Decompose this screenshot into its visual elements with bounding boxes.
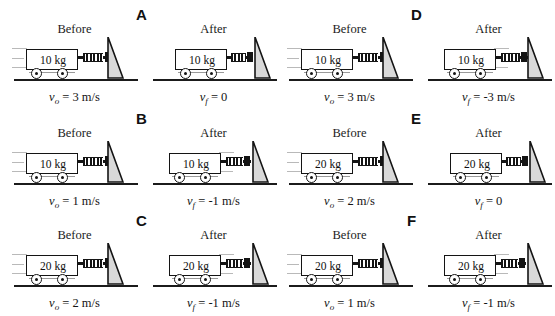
wheel-rear-icon [57,274,68,285]
cart-body: 10 kg [444,49,496,70]
wheel-rear-icon [332,68,343,79]
ground-line [153,285,277,287]
cart-body: 20 kg [169,255,221,276]
spring-bumper-icon [227,53,253,62]
wheel-rear-icon [206,68,217,79]
velocity-caption: vf = -1 m/s [422,296,555,312]
panel-a: A Before 10 kg vo = 3 m/s [8,4,280,107]
wheel-rear-icon [332,274,343,285]
wheel-front-icon [31,274,42,285]
velocity-caption: vf = 0 [422,194,555,210]
wall-icon [528,141,546,183]
spring-bumper-icon [502,157,528,166]
wheel-rear-icon [200,172,211,183]
velocity-caption: vf = -1 m/s [147,296,280,312]
ground-line [289,285,413,287]
spring-bumper-icon [221,157,251,166]
panel-e: E Before 20 kg vo = 2 m/s [283,108,555,211]
wheel-rear-icon [57,68,68,79]
wheel-front-icon [306,172,317,183]
panel-b: B Before 10 kg vo = 1 m/s [8,108,280,211]
wheel-front-icon [455,172,466,183]
velocity-caption: vo = 2 m/s [283,194,416,210]
wall-icon [381,243,399,285]
panel-d: D Before 10 kg vo = 3 m/s [283,4,555,107]
scene-title: Before [8,22,141,37]
wall-icon [253,37,271,79]
panel-f: F Before 20 kg vo = 1 m/s [283,210,555,313]
scene-title: After [147,22,280,37]
physics-figure: A Before 10 kg vo = 3 m/s [0,0,555,316]
cart-body: 10 kg [26,153,78,174]
wheel-front-icon [306,68,317,79]
scene-title: Before [283,228,416,243]
wheel-rear-icon [481,172,492,183]
panel-c: C Before 20 kg vo = 2 m/s [8,210,280,313]
cart-body: 20 kg [301,255,353,276]
scene-d-before: Before 10 kg vo = 3 m/s [283,4,416,107]
ground-line [14,285,138,287]
wheel-rear-icon [200,274,211,285]
scene-title: Before [283,22,416,37]
wall-icon [526,243,544,285]
ground-line [14,79,138,81]
spring-bumper-icon [221,259,251,268]
ground-line [14,183,138,185]
scene-title: After [422,228,555,243]
wall-icon [381,141,399,183]
ground-line [428,183,552,185]
ground-line [153,79,277,81]
scene-c-after: After 20 kg vf = -1 m/s [147,210,280,313]
wall-icon [381,37,399,79]
ground-line [289,79,413,81]
wheel-rear-icon [475,68,486,79]
velocity-caption: vo = 1 m/s [283,296,416,312]
wall-icon [526,37,544,79]
wheel-rear-icon [57,172,68,183]
cart-body: 20 kg [301,153,353,174]
cart-body: 20 kg [444,255,496,276]
velocity-caption: vo = 1 m/s [8,194,141,210]
scene-f-after: After 20 kg vf = -1 m/s [422,210,555,313]
wall-icon [251,243,269,285]
wheel-rear-icon [475,274,486,285]
cart-body: 20 kg [26,255,78,276]
cart-body: 10 kg [175,49,227,70]
scene-f-before: Before 20 kg vo = 1 m/s [283,210,416,313]
wall-icon [106,37,124,79]
wheel-front-icon [306,274,317,285]
ground-line [428,79,552,81]
scene-a-after: After 10 kg vf = 0 [147,4,280,107]
scene-title: After [422,126,555,141]
cart-body: 10 kg [301,49,353,70]
wheel-front-icon [174,172,185,183]
scene-b-after: After 10 kg vf = -1 m/s [147,108,280,211]
wheel-front-icon [31,68,42,79]
wheel-front-icon [449,274,460,285]
scene-title: Before [283,126,416,141]
scene-d-after: After 10 kg vf = -3 m/s [422,4,555,107]
wall-icon [251,141,269,183]
velocity-caption: vo = 3 m/s [283,90,416,106]
wall-icon [106,141,124,183]
velocity-caption: vo = 2 m/s [8,296,141,312]
scene-title: Before [8,228,141,243]
velocity-caption: vf = 0 [147,90,280,106]
scene-title: Before [8,126,141,141]
scene-title: After [147,126,280,141]
spring-bumper-icon [496,53,528,62]
spring-bumper-icon [496,259,526,268]
velocity-caption: vf = -1 m/s [147,194,280,210]
wheel-rear-icon [332,172,343,183]
scene-title: After [422,22,555,37]
ground-line [428,285,552,287]
scene-a-before: Before 10 kg vo = 3 m/s [8,4,141,107]
wheel-front-icon [174,274,185,285]
scene-e-after: After 20 kg vf = 0 [422,108,555,211]
wheel-front-icon [31,172,42,183]
wheel-front-icon [180,68,191,79]
scene-title: After [147,228,280,243]
cart-body: 20 kg [450,153,502,174]
ground-line [153,183,277,185]
velocity-caption: vf = -3 m/s [422,90,555,106]
